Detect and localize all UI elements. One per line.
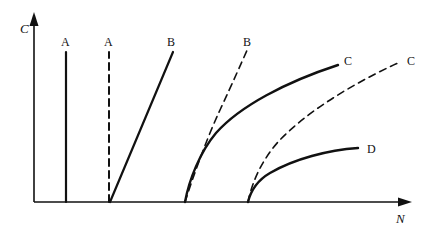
plot-figure: C N A A B B C C D (0, 0, 430, 232)
x-axis-label: N (396, 212, 405, 225)
curve-label-c-dashed: C (407, 55, 415, 67)
series-b-dashed (185, 48, 248, 202)
curve-label-b-dashed: B (243, 36, 251, 48)
series-group (66, 48, 400, 202)
series-c-dashed (248, 62, 400, 202)
curve-label-a-dashed: A (104, 36, 113, 48)
y-axis-label: C (20, 22, 29, 35)
curve-label-d-solid: D (367, 143, 376, 155)
series-c-solid (185, 65, 338, 202)
y-axis-arrowhead-icon (30, 12, 39, 26)
x-axis-arrowhead-icon (398, 198, 412, 207)
curve-label-b-solid: B (167, 36, 175, 48)
series-d-solid (248, 148, 358, 202)
series-b-solid (110, 52, 173, 202)
curve-label-c-solid: C (344, 55, 352, 67)
curve-label-a-solid: A (61, 36, 70, 48)
